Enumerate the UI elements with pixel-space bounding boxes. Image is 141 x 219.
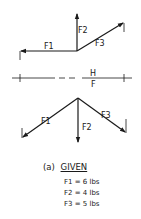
bottom-force-diagram: F1 F2 F3 [22,98,126,142]
caption-prefix: (a) [43,162,55,172]
divider-label-h: H [90,69,96,78]
section-divider: H F [12,69,132,89]
caption-heading: (a) GIVEN [43,162,87,172]
given-value-f2: F2 = 4 lbs [64,188,100,198]
f3-label-top: F3 [95,39,105,48]
f1-label-bottom: F1 [41,117,51,126]
top-force-diagram: F1 F2 F3 [20,14,124,60]
caption-title: GIVEN [61,162,88,172]
f2-label-bottom: F2 [82,123,92,132]
divider-label-f: F [91,80,96,89]
f3-label-bottom: F3 [101,111,111,120]
given-value-f1: F1 = 6 lbs [64,177,100,187]
given-value-f3: F3 = 5 lbs [64,199,100,209]
f2-label-top: F2 [78,26,88,35]
f1-label-top: F1 [44,42,54,51]
